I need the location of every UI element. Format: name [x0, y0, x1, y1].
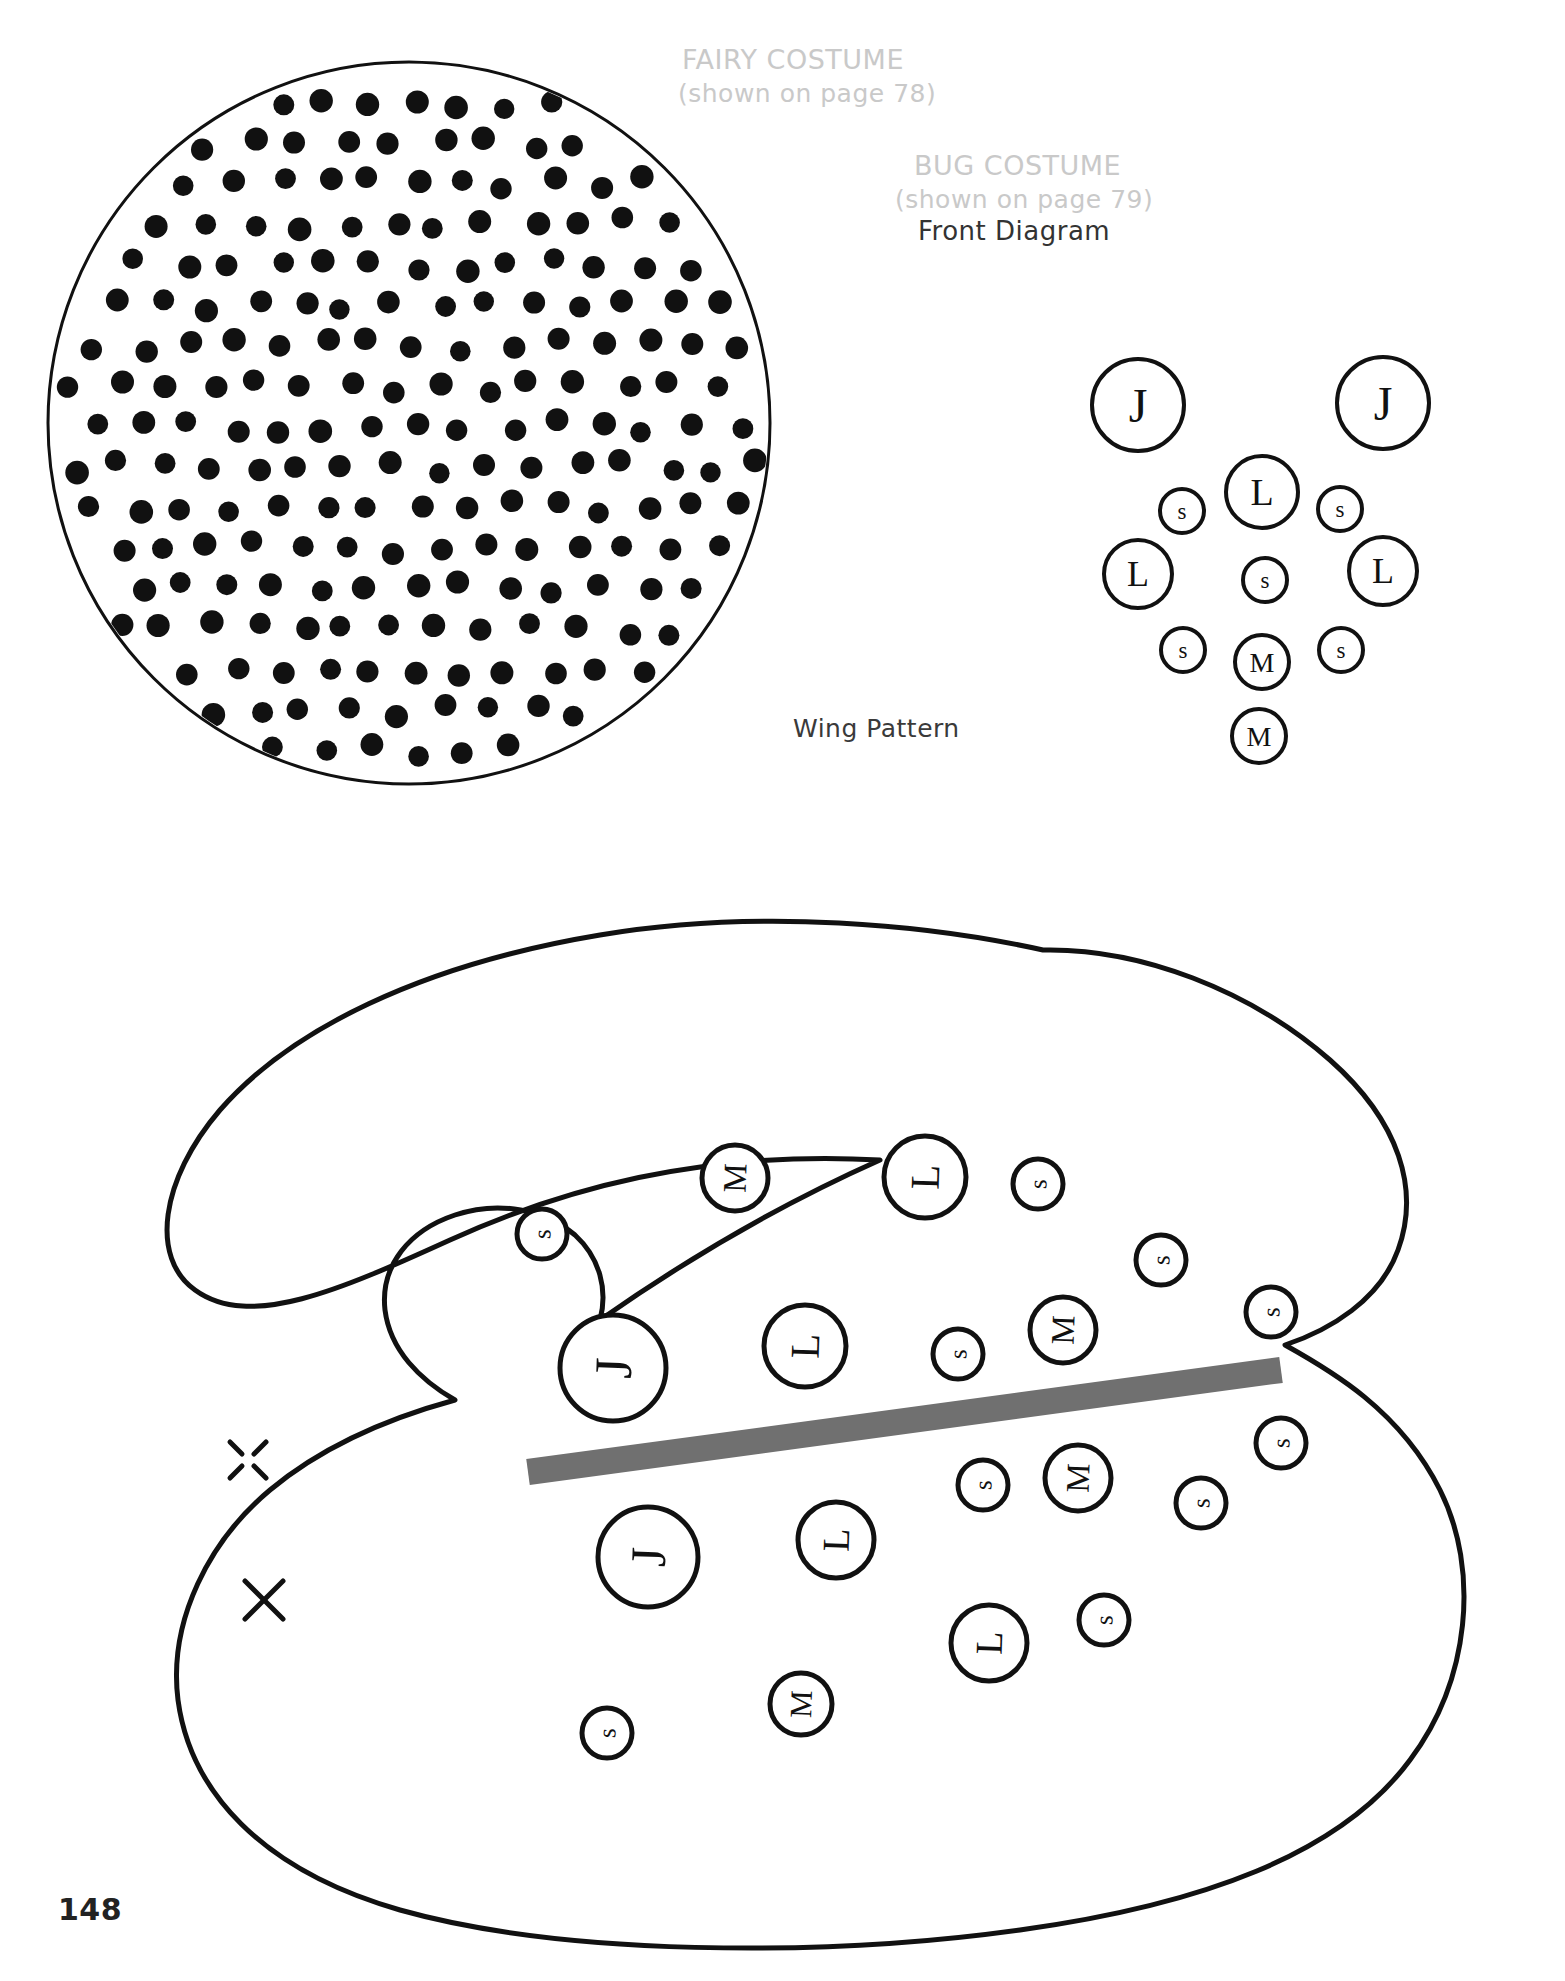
polka-dot [564, 615, 587, 638]
polka-dot [620, 624, 642, 646]
size-letter: J [1374, 377, 1393, 430]
polka-dot [407, 574, 430, 597]
polka-dot [494, 99, 514, 119]
polka-dot [567, 212, 590, 235]
polka-dot [408, 170, 431, 193]
size-letter: s [1261, 568, 1270, 593]
polka-dot [78, 496, 99, 517]
polka-dot [180, 331, 202, 353]
wing-circle-m-18: M [770, 1673, 832, 1735]
polka-dot [473, 454, 495, 476]
size-letter: s [944, 1349, 971, 1360]
polka-dot [422, 614, 445, 637]
size-letter: s [1090, 1615, 1117, 1626]
polka-dot [176, 664, 198, 686]
polka-dot [248, 459, 271, 482]
size-letter: J [584, 1357, 643, 1380]
wing-circle-s-17: s [1079, 1595, 1129, 1645]
polka-dot [273, 662, 295, 684]
polka-dot [318, 497, 339, 518]
polka-dot [406, 91, 429, 114]
polka-dot [681, 578, 702, 599]
size-letter: J [620, 1546, 677, 1567]
polka-dot [412, 496, 434, 518]
fairy-costume-subtitle: (shown on page 78) [678, 79, 936, 108]
polka-dot [548, 328, 570, 350]
polka-dot [328, 455, 350, 477]
polka-dot [250, 290, 272, 312]
polka-dot [658, 625, 679, 646]
polka-dot [456, 497, 478, 519]
x-dash-stroke [254, 1442, 266, 1454]
front-diagram-label: Front Diagram [918, 216, 1110, 246]
size-letter: L [1372, 551, 1394, 591]
polka-dot [382, 543, 404, 565]
polka-dot [708, 290, 732, 314]
polka-dot [430, 372, 453, 395]
polka-dot [563, 706, 584, 727]
polka-dot [383, 382, 405, 404]
polka-dot [639, 497, 662, 520]
polka-dot [147, 614, 170, 637]
front-diagram-circle-m-11: M [1232, 709, 1286, 763]
polka-dot [339, 697, 360, 718]
polka-dot [130, 500, 154, 524]
polka-dot [354, 327, 377, 350]
front-diagram-circle-s-2: s [1160, 489, 1204, 533]
polka-dot [527, 695, 549, 717]
polka-dot [317, 328, 340, 351]
polka-dot [275, 168, 296, 189]
polka-dot [700, 462, 720, 482]
polka-dot [505, 420, 526, 441]
polka-dot [352, 576, 375, 599]
polka-dot [435, 129, 457, 151]
polka-dot [640, 578, 662, 600]
polka-dot [435, 296, 456, 317]
polka-dot [356, 660, 378, 682]
polka-dot [152, 538, 173, 559]
polka-dot [377, 291, 400, 314]
wing-circle-m-12: M [1045, 1445, 1111, 1511]
polka-dot [309, 419, 333, 443]
wing-circle-s-3: s [1013, 1159, 1063, 1209]
polka-dot [379, 451, 402, 474]
wing-circle-s-19: s [582, 1708, 632, 1758]
polka-dot [317, 740, 338, 761]
wing-circle-s-11: s [958, 1460, 1008, 1510]
polka-dot [681, 333, 703, 355]
size-letter: s [528, 1229, 555, 1240]
front-diagram-circle-j-1: J [1337, 357, 1429, 449]
polka-dot [660, 539, 682, 561]
polka-dot [405, 662, 428, 685]
polka-dot [612, 207, 634, 229]
size-letter: L [1127, 554, 1149, 594]
front-diagram-circle-l-5: L [1104, 540, 1172, 608]
wing-circle-s-7: s [933, 1329, 983, 1379]
polka-dot [665, 290, 688, 313]
polka-dot [205, 376, 227, 398]
polka-dot [329, 616, 350, 637]
polka-dot [357, 250, 379, 272]
polka-dot [587, 574, 609, 596]
polka-dot [105, 450, 126, 471]
polka-dot [153, 289, 174, 310]
polka-dot [582, 256, 604, 278]
polka-dot [195, 299, 218, 322]
polka-dot [355, 497, 376, 518]
front-diagram-circle-s-8: s [1161, 628, 1205, 672]
polka-dot [523, 292, 545, 314]
polka-dot [495, 252, 516, 273]
wing-circle-s-9: s [1246, 1287, 1296, 1337]
front-diagram-circle-s-6: s [1243, 558, 1287, 602]
wing-circle-j-5: J [560, 1315, 666, 1421]
polka-dot [168, 499, 190, 521]
polka-dot [250, 613, 271, 634]
polka-dot [520, 457, 542, 479]
polka-dot [709, 535, 730, 556]
polka-dot [293, 536, 314, 557]
wing-circle-l-6: L [764, 1305, 846, 1387]
polka-dot [451, 742, 473, 764]
polka-dot [726, 337, 749, 360]
polka-dot [499, 577, 522, 600]
polka-dot [446, 420, 467, 441]
